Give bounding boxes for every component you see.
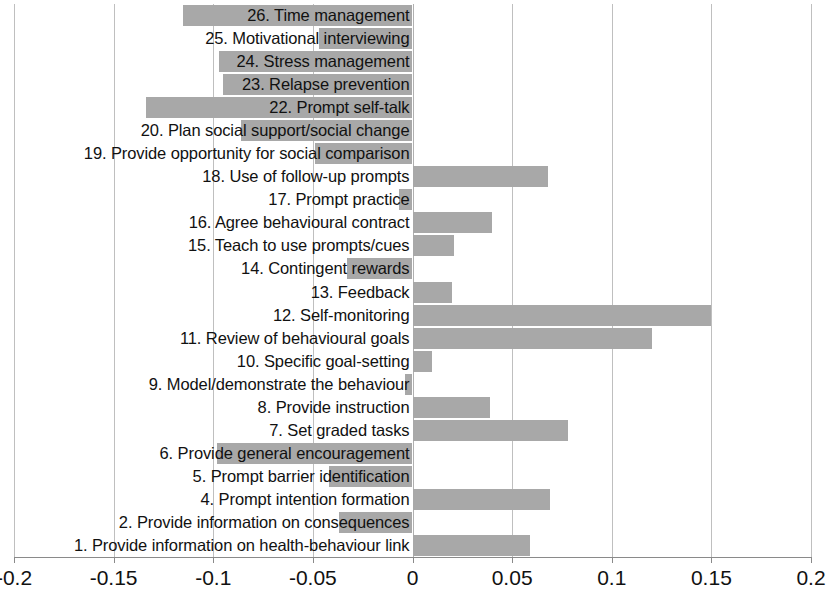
bar [413,351,433,372]
x-tick-label: 0.15 [691,566,732,590]
bar-row: 17. Prompt practice [14,188,811,211]
bar-row: 1. Provide information on health-behavio… [14,534,811,557]
horizontal-bar-chart: 26. Time management25. Motivational inte… [0,0,839,608]
bar-row: 9. Model/demonstrate the behaviour [14,373,811,396]
bar-row: 20. Plan social support/social change [14,119,811,142]
bar-row: 2. Provide information on consequences [14,511,811,534]
category-label: 1. Provide information on health-behavio… [74,534,410,557]
bar-row: 5. Prompt barrier identification [14,465,811,488]
bar-row: 19. Provide opportunity for social compa… [14,142,811,165]
x-tick-label: -0.1 [195,566,231,590]
x-tick [114,557,115,563]
bar-row: 25. Motivational interviewing [14,27,811,50]
bar-row: 14. Contingent rewards [14,257,811,280]
category-label: 14. Contingent rewards [241,257,409,280]
bar-row: 6. Provide general encouragement [14,442,811,465]
bar-row: 26. Time management [14,4,811,27]
x-tick [811,557,812,563]
bar-row: 11. Review of behavioural goals [14,327,811,350]
x-tick [213,557,214,563]
bar-row: 23. Relapse prevention [14,73,811,96]
bar [413,305,712,326]
category-label: 10. Specific goal-setting [237,350,410,373]
bar-row: 7. Set graded tasks [14,419,811,442]
category-label: 9. Model/demonstrate the behaviour [149,373,410,396]
bar-row: 4. Prompt intention formation [14,488,811,511]
x-tick [711,557,712,563]
x-tick-label: -0.15 [90,566,138,590]
x-tick [413,557,414,563]
x-tick-label: -0.2 [0,566,32,590]
category-label: 19. Provide opportunity for social compa… [84,142,410,165]
bar [413,166,548,187]
category-label: 5. Prompt barrier identification [193,465,410,488]
bar-rows: 26. Time management25. Motivational inte… [14,4,811,557]
x-tick-label: 0.05 [492,566,533,590]
x-tick [512,557,513,563]
bar-row: 13. Feedback [14,281,811,304]
bar [413,420,568,441]
x-tick-label: 0 [407,566,419,590]
category-label: 24. Stress management [236,50,409,73]
category-label: 4. Prompt intention formation [201,488,410,511]
category-label: 15. Teach to use prompts/cues [188,234,410,257]
category-label: 11. Review of behavioural goals [180,327,410,350]
category-label: 8. Provide instruction [258,396,410,419]
bar-row: 10. Specific goal-setting [14,350,811,373]
bar-row: 16. Agree behavioural contract [14,211,811,234]
category-label: 25. Motivational interviewing [205,27,409,50]
bar [413,212,493,233]
x-tick [612,557,613,563]
category-label: 7. Set graded tasks [269,419,409,442]
x-tick [313,557,314,563]
gridline-0.2 [811,4,812,557]
bar [413,489,550,510]
bar-row: 8. Provide instruction [14,396,811,419]
category-label: 2. Provide information on consequences [119,511,410,534]
category-label: 6. Provide general encouragement [160,442,410,465]
category-label: 23. Relapse prevention [242,73,410,96]
bar [413,235,455,256]
category-label: 22. Prompt self-talk [269,96,409,119]
x-tick-label: -0.05 [289,566,337,590]
bar-row: 22. Prompt self-talk [14,96,811,119]
bar-row: 12. Self-monitoring [14,304,811,327]
x-tick-label: 0.2 [796,566,825,590]
bar [413,535,531,556]
bar [413,397,491,418]
bar-row: 15. Teach to use prompts/cues [14,234,811,257]
category-label: 18. Use of follow-up prompts [202,165,409,188]
bar [413,282,453,303]
plot-area: 26. Time management25. Motivational inte… [14,4,811,557]
bar-row: 24. Stress management [14,50,811,73]
category-label: 26. Time management [247,4,409,27]
x-tick-label: 0.1 [597,566,626,590]
category-label: 16. Agree behavioural contract [189,211,410,234]
category-label: 12. Self-monitoring [273,304,410,327]
category-label: 13. Feedback [311,281,410,304]
category-label: 20. Plan social support/social change [141,119,410,142]
bar-row: 18. Use of follow-up prompts [14,165,811,188]
x-tick [14,557,15,563]
bar [413,328,652,349]
category-label: 17. Prompt practice [268,188,409,211]
